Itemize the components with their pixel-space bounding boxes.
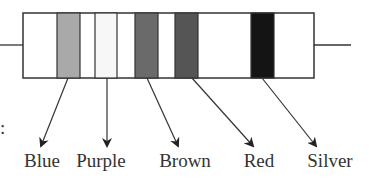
band-label-red: Red: [244, 150, 275, 172]
band-label-purple: Purple: [76, 150, 126, 172]
band-brown: [135, 13, 158, 78]
arrow-blue: [41, 78, 68, 146]
band-blue: [57, 13, 80, 78]
band-label-blue: Blue: [24, 150, 60, 172]
leading-colon-fragment: :: [0, 117, 5, 139]
arrow-silver: [262, 78, 316, 146]
band-purple: [95, 13, 117, 78]
band-arrows: [41, 78, 316, 146]
arrow-brown: [147, 78, 178, 146]
band-red: [175, 13, 198, 78]
band-label-silver: Silver: [307, 150, 352, 172]
band-label-brown: Brown: [159, 150, 211, 172]
band-silver: [251, 13, 274, 78]
arrow-red: [192, 78, 253, 146]
